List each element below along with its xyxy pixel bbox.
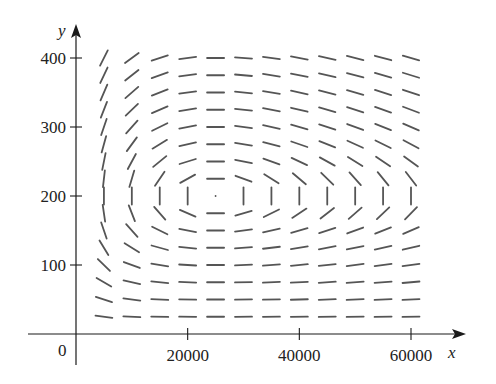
slope-segment bbox=[403, 299, 420, 300]
slope-segment bbox=[101, 222, 106, 238]
slope-segment bbox=[152, 89, 168, 95]
slope-segment bbox=[235, 57, 252, 58]
slope-segment bbox=[179, 264, 196, 265]
slope-segment bbox=[263, 264, 280, 265]
slope-segment bbox=[347, 73, 363, 77]
slope-segment bbox=[154, 207, 165, 220]
slope-segment bbox=[179, 57, 196, 59]
slope-segment bbox=[347, 228, 363, 234]
slope-segment bbox=[321, 208, 334, 218]
slope-segment bbox=[292, 158, 307, 165]
slope-segment bbox=[376, 157, 390, 167]
slope-segment bbox=[96, 297, 112, 302]
slope-segment bbox=[235, 126, 252, 128]
slope-segment bbox=[100, 240, 109, 255]
slope-segment bbox=[124, 280, 141, 284]
slope-segment bbox=[375, 107, 391, 113]
slope-segment bbox=[101, 119, 106, 135]
slope-segment bbox=[403, 227, 419, 234]
slope-segment bbox=[124, 262, 140, 268]
slope-segment bbox=[263, 57, 280, 59]
slope-segment bbox=[405, 207, 417, 219]
slope-segment bbox=[152, 55, 168, 60]
slope-segment bbox=[403, 56, 419, 61]
slope-segment bbox=[152, 106, 168, 113]
slope-segment bbox=[291, 246, 308, 249]
slope-segment bbox=[319, 90, 335, 94]
slope-segment bbox=[235, 75, 252, 77]
slope-segment bbox=[180, 210, 196, 217]
slope-segment bbox=[179, 282, 196, 283]
slope-segment bbox=[375, 264, 392, 266]
slope-segment bbox=[97, 278, 112, 287]
slope-segment bbox=[123, 316, 140, 317]
slope-segment bbox=[375, 227, 391, 233]
slope-segment bbox=[125, 87, 138, 98]
slope-segment bbox=[101, 85, 108, 101]
y-tick-label: 300 bbox=[41, 118, 67, 137]
slope-segment bbox=[403, 140, 418, 148]
slope-segment bbox=[179, 108, 196, 111]
slope-segment bbox=[152, 140, 167, 149]
slope-segments bbox=[96, 50, 420, 318]
slope-segment bbox=[235, 247, 252, 248]
slope-segment bbox=[375, 90, 391, 95]
slope-segment bbox=[152, 227, 167, 235]
slope-segment bbox=[153, 156, 166, 167]
slope-segment bbox=[406, 172, 416, 185]
slope-segment bbox=[102, 153, 105, 170]
slope-segment bbox=[180, 175, 195, 183]
slope-segment bbox=[235, 211, 251, 216]
slope-segment bbox=[347, 56, 364, 60]
slope-segment bbox=[404, 157, 418, 167]
slope-segment bbox=[126, 104, 138, 116]
slope-segment bbox=[349, 172, 360, 185]
slope-segment bbox=[263, 229, 280, 233]
slope-segment bbox=[291, 91, 308, 95]
slope-segment bbox=[375, 56, 391, 60]
slope-segment bbox=[319, 228, 335, 233]
slope-segment bbox=[347, 299, 364, 300]
slope-segment bbox=[377, 207, 389, 219]
slope-segment bbox=[125, 53, 139, 63]
slope-segment bbox=[152, 72, 168, 78]
slope-segment bbox=[403, 73, 419, 78]
slope-segment bbox=[235, 92, 252, 94]
slope-segment bbox=[263, 142, 279, 146]
slope-segment bbox=[151, 299, 168, 300]
slope-segment bbox=[235, 109, 252, 111]
slope-segment bbox=[347, 282, 364, 283]
slope-segment bbox=[293, 173, 306, 184]
slope-segment bbox=[403, 246, 420, 250]
slope-segment bbox=[349, 208, 362, 219]
slope-segment bbox=[319, 107, 335, 112]
slope-segment bbox=[179, 91, 196, 93]
slope-segment bbox=[347, 246, 364, 249]
slope-segment bbox=[125, 70, 138, 81]
slope-segment bbox=[375, 246, 392, 250]
slope-segment bbox=[155, 172, 165, 186]
slope-segment bbox=[128, 154, 136, 169]
slope-segment bbox=[375, 73, 391, 78]
slope-segment bbox=[403, 124, 419, 131]
slope-segment bbox=[264, 209, 279, 217]
slope-segment bbox=[179, 247, 196, 249]
slope-segment bbox=[403, 107, 419, 113]
slope-segment bbox=[319, 264, 336, 266]
slope-segment bbox=[375, 124, 391, 130]
slope-segment bbox=[292, 209, 306, 218]
y-axis-label: y bbox=[56, 21, 66, 40]
slope-segment bbox=[321, 173, 333, 185]
slope-segment bbox=[98, 259, 110, 271]
slope-segment bbox=[291, 74, 308, 77]
slope-segment bbox=[179, 125, 196, 128]
slope-segment bbox=[403, 264, 420, 266]
slope-segment bbox=[375, 282, 392, 283]
slope-segment bbox=[347, 107, 363, 112]
slope-segment bbox=[291, 299, 308, 300]
slope-segment bbox=[126, 121, 137, 134]
x-axis-label: x bbox=[447, 343, 456, 362]
slope-segment bbox=[263, 91, 280, 94]
x-tick-label: 60000 bbox=[390, 346, 433, 365]
slope-segment bbox=[291, 282, 308, 283]
